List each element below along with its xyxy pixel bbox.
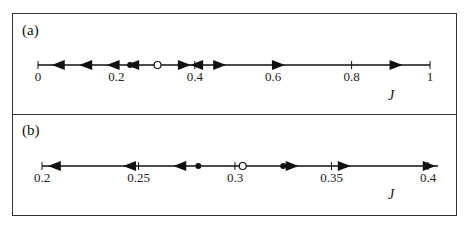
tick-label: 0.2: [34, 170, 50, 185]
tick-label: 0.6: [265, 69, 282, 84]
tick-label: 0.35: [320, 170, 343, 185]
arrow-left-icon: [79, 60, 92, 70]
stable-point-icon: [195, 163, 201, 169]
arrow-right-icon: [338, 161, 351, 171]
arrow-right-icon: [286, 161, 299, 171]
unstable-point-icon: [154, 62, 161, 69]
tick-label: 0.4: [187, 69, 204, 84]
tick-label: 1: [427, 69, 434, 84]
arrow-right-icon: [213, 60, 226, 70]
tick-label: 0.25: [127, 170, 150, 185]
arrow-left-icon: [173, 161, 186, 171]
phase-line-plot: 00.20.40.60.810.20.250.30.350.4: [0, 0, 467, 231]
tick-label: 0: [35, 69, 42, 84]
tick-label: 0.8: [343, 69, 359, 84]
tick-label: 0.3: [227, 170, 243, 185]
stable-point-icon: [280, 163, 286, 169]
arrow-right-icon: [390, 60, 403, 70]
unstable-point-icon: [239, 163, 246, 170]
arrow-left-icon: [52, 60, 65, 70]
stable-point-icon: [127, 62, 133, 68]
tick-label: 0.4: [420, 170, 437, 185]
tick-label: 0.2: [108, 69, 124, 84]
stable-point-icon: [178, 62, 184, 68]
